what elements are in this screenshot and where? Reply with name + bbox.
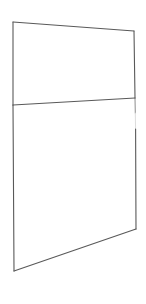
lower-panel-face xyxy=(13,98,136,271)
drawing-canvas xyxy=(0,0,146,304)
line-drawing xyxy=(0,0,146,304)
upper-panel-face xyxy=(13,22,135,105)
